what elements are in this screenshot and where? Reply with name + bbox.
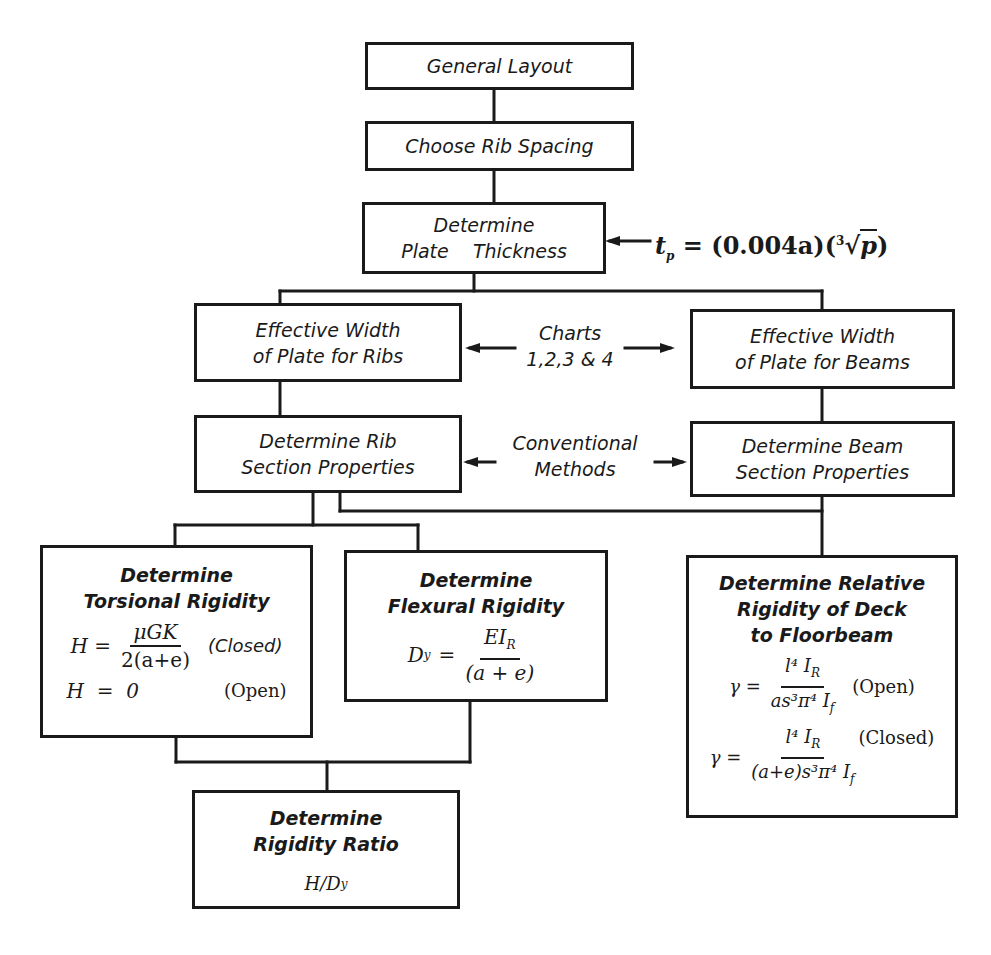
node-label-line1: Determine Relative: [719, 570, 925, 596]
formula-lhs: γ =: [710, 745, 742, 771]
denominator-text: as³π⁴ I: [771, 690, 830, 711]
flowchart-canvas: General Layout Choose Rib Spacing Determ…: [0, 0, 991, 955]
fraction-numerator: l⁴ IR: [781, 725, 824, 759]
node-effective-width-beams: Effective Width of Plate for Beams: [690, 309, 955, 389]
node-label-line1: Determine: [420, 567, 533, 593]
formula-rhs: = (0.004a)(: [683, 231, 836, 260]
node-label-line2: Torsional Rigidity: [83, 588, 269, 614]
formula-tag: (Open): [852, 674, 915, 700]
node-choose-rib-spacing: Choose Rib Spacing: [365, 121, 634, 171]
rigidity-ratio-formula: H/Dy: [305, 871, 348, 897]
formula-lhs: D: [408, 642, 424, 668]
node-label-line1: Determine Beam: [742, 433, 904, 459]
radicand: p: [860, 229, 877, 260]
node-label-line1: Determine: [270, 805, 383, 831]
flexural-formula: Dy = EIR (a + e): [408, 625, 544, 685]
formula-lhs: H = 0: [67, 678, 139, 704]
node-plate-thickness: Determine Plate Thickness: [362, 202, 606, 274]
formula-lhs: γ =: [729, 674, 761, 700]
fraction-numerator: μGK: [130, 620, 182, 647]
charts-annotation: Charts 1,2,3 & 4: [510, 320, 630, 372]
node-label-line2: Section Properties: [241, 454, 414, 480]
node-relative-rigidity: Determine Relative Rigidity of Deck to F…: [686, 555, 958, 818]
numerator-text: l⁴ I: [785, 726, 811, 747]
node-label-line1: Determine Rib: [259, 428, 396, 454]
node-general-layout: General Layout: [365, 42, 634, 90]
formula-text: H/D: [305, 871, 341, 897]
annotation-line2: 1,2,3 & 4: [510, 346, 630, 372]
annotation-line1: Conventional: [490, 430, 660, 456]
numerator-text: l⁴ I: [785, 655, 811, 676]
torsional-formula-open: H = 0 (Open): [67, 678, 287, 704]
fraction-denominator: as³π⁴ If: [767, 688, 839, 720]
node-label-line1: Determine: [434, 212, 535, 238]
formula-fraction: l⁴ IR as³π⁴ If: [767, 654, 839, 719]
node-label-line2: of Plate for Beams: [735, 349, 910, 375]
node-label-line1: Effective Width: [255, 317, 400, 343]
formula-fraction: l⁴ IR (a+e)s³π⁴ If: [747, 725, 858, 790]
conventional-methods-annotation: Conventional Methods: [490, 430, 660, 482]
fraction-numerator: l⁴ IR: [781, 654, 824, 688]
formula-sub: y: [341, 871, 348, 897]
node-label: Choose Rib Spacing: [405, 133, 593, 159]
node-label-line2: Plate Thickness: [401, 238, 567, 264]
formula-tag: (Closed): [859, 725, 935, 751]
denominator-text: (a+e)s³π⁴ I: [751, 761, 850, 782]
numerator-sub: R: [811, 737, 820, 751]
annotation-line2: Methods: [490, 456, 660, 482]
torsional-formula-closed: H = μGK 2(a+e) (Closed): [71, 620, 283, 672]
node-label-line2: Flexural Rigidity: [388, 593, 564, 619]
node-label-line1: Effective Width: [750, 323, 895, 349]
node-label-line2: of Plate for Ribs: [253, 343, 404, 369]
node-label-line2: Rigidity of Deck: [737, 596, 907, 622]
formula-equals: =: [439, 642, 456, 668]
denominator-sub: f: [850, 771, 854, 785]
node-rib-section-properties: Determine Rib Section Properties: [194, 415, 462, 493]
formula-lhs: H =: [71, 633, 112, 659]
node-beam-section-properties: Determine Beam Section Properties: [690, 421, 955, 497]
fraction-denominator: 2(a+e): [117, 647, 194, 672]
fraction-numerator: EIR: [480, 625, 520, 660]
formula-lhs-sub: y: [424, 642, 431, 668]
annotation-line1: Charts: [510, 320, 630, 346]
formula-tag: (Closed): [208, 633, 283, 659]
node-label-line2: Section Properties: [736, 459, 909, 485]
numerator-sub: R: [811, 666, 820, 680]
plate-thickness-formula: tp = (0.004a)(3√p): [655, 223, 888, 274]
formula-close: ): [877, 231, 888, 260]
formula-fraction: μGK 2(a+e): [117, 620, 194, 672]
formula-fraction: EIR (a + e): [461, 625, 538, 685]
relative-formula-open: γ = l⁴ IR as³π⁴ If (Open): [729, 654, 915, 719]
formula-tag: (Open): [224, 678, 287, 704]
numerator-sub: R: [507, 638, 516, 652]
node-label-line2: Rigidity Ratio: [253, 831, 399, 857]
node-label-line1: Determine: [120, 562, 233, 588]
node-label: General Layout: [427, 53, 573, 79]
formula-lhs: t: [655, 231, 666, 260]
fraction-denominator: (a + e): [461, 660, 538, 685]
numerator-text: EI: [484, 625, 507, 649]
node-rigidity-ratio: Determine Rigidity Ratio H/Dy: [192, 790, 460, 909]
node-label-line3: to Floorbeam: [751, 622, 894, 648]
radical-sign: √: [844, 231, 860, 260]
node-effective-width-ribs: Effective Width of Plate for Ribs: [194, 303, 462, 382]
denominator-sub: f: [830, 700, 834, 714]
formula-lhs-sub: p: [666, 249, 674, 263]
relative-formula-closed: γ = l⁴ IR (a+e)s³π⁴ If (Closed): [710, 725, 935, 790]
fraction-denominator: (a+e)s³π⁴ If: [747, 759, 858, 791]
node-flexural-rigidity: Determine Flexural Rigidity Dy = EIR (a …: [344, 550, 608, 702]
node-torsional-rigidity: Determine Torsional Rigidity H = μGK 2(a…: [40, 545, 313, 738]
